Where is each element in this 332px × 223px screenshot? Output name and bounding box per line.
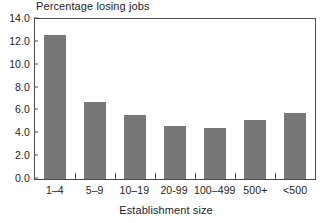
y-tick-mark [34, 63, 38, 64]
bar[interactable] [44, 35, 66, 179]
y-tick-mark [34, 86, 38, 87]
x-tick-mark [195, 173, 196, 179]
y-tick-mark [34, 178, 38, 179]
bar-chart-figure: Percentage losing jobs 14.0 12.0 10.0 8.… [0, 0, 332, 223]
x-tick-label: 1–4 [35, 184, 75, 197]
x-tick-mark [155, 173, 156, 179]
x-tick-mark [115, 173, 116, 179]
x-tick-label: 10–19 [114, 184, 154, 197]
bar-slot [155, 19, 195, 179]
y-tick-label: 8.0 [15, 81, 30, 92]
x-tick-label: <500 [275, 184, 315, 197]
bar-slot [195, 19, 235, 179]
chart-title: Percentage losing jobs [36, 0, 150, 14]
y-tick-label: 4.0 [15, 127, 30, 138]
bar[interactable] [124, 115, 146, 179]
x-tick-label: 500+ [236, 184, 276, 197]
bar-slot [35, 19, 75, 179]
bar-slot [275, 19, 315, 179]
y-tick-mark [34, 132, 38, 133]
x-tick-label: 20-99 [154, 184, 194, 197]
x-axis-title: Establishment size [0, 203, 332, 218]
x-tick-mark [235, 173, 236, 179]
x-tick-label: 5–9 [75, 184, 115, 197]
bar[interactable] [244, 120, 266, 179]
x-tick-label: 100–499 [194, 184, 236, 197]
bar[interactable] [204, 128, 226, 179]
bar-slot [75, 19, 115, 179]
bar[interactable] [284, 113, 306, 179]
y-tick-label: 10.0 [9, 58, 30, 69]
bars-area [35, 19, 315, 179]
x-axis: 1–45–910–1920-99100–499500+<500 [35, 184, 315, 197]
bar[interactable] [164, 126, 186, 179]
x-tick-mark [75, 173, 76, 179]
y-tick-mark [34, 18, 38, 19]
y-tick-label: 0.0 [15, 173, 30, 184]
y-tick-label: 12.0 [9, 35, 30, 46]
y-tick-mark [34, 40, 38, 41]
y-tick-mark [34, 155, 38, 156]
bar-slot [115, 19, 155, 179]
y-tick-label: 2.0 [15, 150, 30, 161]
y-tick-label: 14.0 [9, 13, 30, 24]
x-tick-mark [275, 173, 276, 179]
bar[interactable] [84, 102, 106, 179]
y-tick-label: 6.0 [15, 104, 30, 115]
y-tick-mark [34, 109, 38, 110]
y-axis: 14.0 12.0 10.0 8.0 6.0 4.0 2.0 0.0 [0, 18, 30, 180]
bar-slot [235, 19, 275, 179]
